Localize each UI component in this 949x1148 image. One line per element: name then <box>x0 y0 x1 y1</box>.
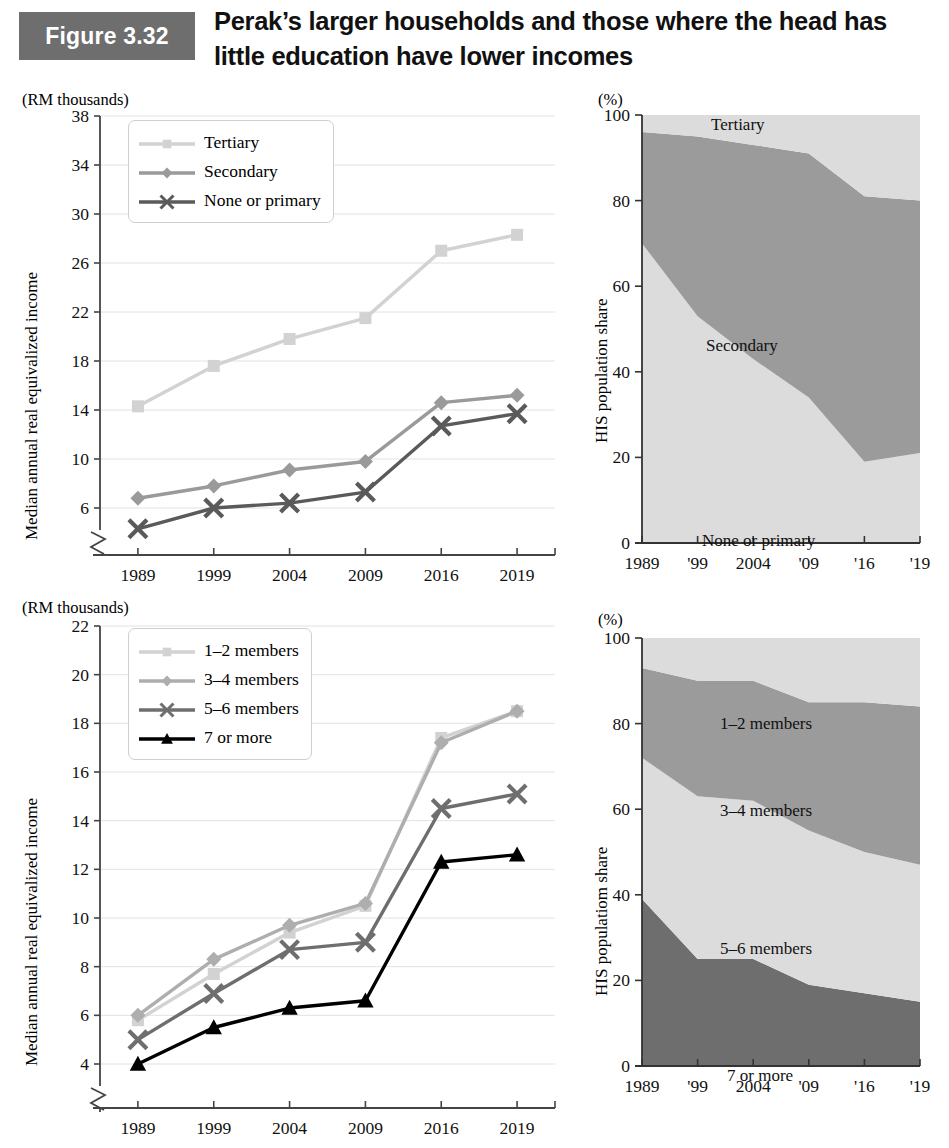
svg-text:0: 0 <box>621 533 630 553</box>
area-label-none-or-primary: None or primary <box>702 531 815 551</box>
svg-text:4: 4 <box>80 1054 89 1074</box>
chart-top-right: (%) HIS population share 020406080100198… <box>580 88 949 588</box>
legend-label: None or primary <box>204 190 321 211</box>
svg-text:1999: 1999 <box>196 565 231 585</box>
svg-text:26: 26 <box>72 253 90 273</box>
svg-text:1989: 1989 <box>120 565 155 585</box>
svg-text:1989: 1989 <box>120 1118 155 1138</box>
svg-text:100: 100 <box>604 105 631 125</box>
svg-text:2019: 2019 <box>500 1118 535 1138</box>
svg-text:2019: 2019 <box>500 565 535 585</box>
svg-text:60: 60 <box>613 799 631 819</box>
svg-text:22: 22 <box>72 302 90 322</box>
svg-text:'99: '99 <box>687 553 708 573</box>
legend-label: 1–2 members <box>204 640 299 661</box>
figure-header: Figure 3.32 Perak’s larger households an… <box>0 0 949 86</box>
svg-text:2016: 2016 <box>424 1118 459 1138</box>
svg-text:2009: 2009 <box>348 1118 383 1138</box>
svg-text:20: 20 <box>613 447 631 467</box>
legend-item-3: 5–6 members <box>139 694 299 723</box>
svg-text:2004: 2004 <box>272 1118 307 1138</box>
legend-swatch-diamond-icon <box>139 672 195 688</box>
svg-text:14: 14 <box>72 811 90 831</box>
svg-text:'16: '16 <box>854 1076 875 1096</box>
legend-swatch-cross-icon <box>139 701 195 717</box>
svg-text:6: 6 <box>80 498 89 518</box>
svg-text:38: 38 <box>72 106 90 126</box>
svg-text:2016: 2016 <box>424 565 459 585</box>
legend-item-1: Tertiary <box>139 128 321 157</box>
svg-text:18: 18 <box>72 713 90 733</box>
svg-text:0: 0 <box>621 1056 630 1076</box>
svg-text:2004: 2004 <box>272 565 307 585</box>
page-title-line1: Perak’s larger households and those wher… <box>214 4 944 39</box>
svg-text:1989: 1989 <box>625 1076 660 1096</box>
legend-bottom-left: 1–2 members3–4 members5–6 members7 or mo… <box>128 628 312 760</box>
legend-item-4: 7 or more <box>139 723 299 752</box>
svg-text:12: 12 <box>72 859 90 879</box>
svg-text:'16: '16 <box>854 553 875 573</box>
figure-number-label: Figure 3.32 <box>45 23 169 50</box>
svg-text:16: 16 <box>72 762 90 782</box>
page-title-line2: little education have lower incomes <box>214 39 944 74</box>
svg-text:2009: 2009 <box>348 565 383 585</box>
svg-text:10: 10 <box>72 908 90 928</box>
svg-text:1989: 1989 <box>625 553 660 573</box>
area-label-1-2-members: 1–2 members <box>720 714 812 734</box>
svg-text:80: 80 <box>613 191 631 211</box>
figure-number-badge: Figure 3.32 <box>19 12 195 60</box>
legend-top-left: TertiarySecondaryNone or primary <box>128 120 334 223</box>
legend-item-2: Secondary <box>139 157 321 186</box>
svg-text:60: 60 <box>613 276 631 296</box>
legend-item-1: 1–2 members <box>139 636 299 665</box>
svg-text:80: 80 <box>613 714 631 734</box>
svg-text:22: 22 <box>72 616 90 636</box>
svg-text:20: 20 <box>72 665 90 685</box>
svg-text:10: 10 <box>72 449 90 469</box>
svg-text:20: 20 <box>613 970 631 990</box>
chart-bottom-right: (%) HIS populatiom share 020406080100198… <box>580 596 949 1148</box>
legend-label: 7 or more <box>204 727 272 748</box>
area-label-tertiary: Tertiary <box>711 115 765 135</box>
svg-text:'99: '99 <box>687 1076 708 1096</box>
legend-label: 3–4 members <box>204 669 299 690</box>
legend-swatch-square-icon <box>139 135 195 151</box>
legend-label: Secondary <box>204 161 278 182</box>
chart-bottom-left: (RM thousands) Median annual real equiva… <box>0 596 580 1148</box>
legend-label: Tertiary <box>204 132 259 153</box>
svg-text:2004: 2004 <box>736 553 771 573</box>
legend-item-3: None or primary <box>139 186 321 215</box>
svg-text:6: 6 <box>80 1005 89 1025</box>
chart-top-left: (RM thousands) Median annual real equiva… <box>0 88 580 588</box>
page-title: Perak’s larger households and those wher… <box>214 4 944 74</box>
area-label-7-or-more: 7 or more <box>727 1066 793 1086</box>
svg-text:18: 18 <box>72 351 90 371</box>
svg-text:40: 40 <box>613 885 631 905</box>
legend-swatch-square-icon <box>139 643 195 659</box>
svg-text:1999: 1999 <box>196 1118 231 1138</box>
legend-label: 5–6 members <box>204 698 299 719</box>
svg-text:14: 14 <box>72 400 90 420</box>
legend-swatch-triangle-icon <box>139 730 195 746</box>
svg-text:34: 34 <box>72 155 90 175</box>
svg-text:30: 30 <box>72 204 90 224</box>
legend-swatch-cross-icon <box>139 193 195 209</box>
area-label-secondary: Secondary <box>706 336 778 356</box>
svg-text:'19: '19 <box>910 553 931 573</box>
svg-text:8: 8 <box>80 957 89 977</box>
svg-text:40: 40 <box>613 362 631 382</box>
area-label-5-6-members: 5–6 members <box>720 939 812 959</box>
svg-text:'09: '09 <box>798 553 819 573</box>
svg-text:'19: '19 <box>910 1076 931 1096</box>
legend-item-2: 3–4 members <box>139 665 299 694</box>
area-label-3-4-members: 3–4 members <box>720 801 812 821</box>
svg-text:'09: '09 <box>798 1076 819 1096</box>
svg-text:100: 100 <box>604 628 631 648</box>
legend-swatch-diamond-icon <box>139 164 195 180</box>
source-note-strip <box>0 1138 949 1148</box>
